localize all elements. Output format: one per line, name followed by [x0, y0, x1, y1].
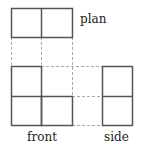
side-label: side — [104, 131, 129, 143]
projection-guides — [12, 37, 103, 126]
plan-view — [12, 9, 73, 38]
side-view — [103, 67, 133, 126]
front-view — [12, 67, 73, 126]
plan-label: plan — [80, 13, 106, 25]
front-label: front — [27, 131, 57, 143]
